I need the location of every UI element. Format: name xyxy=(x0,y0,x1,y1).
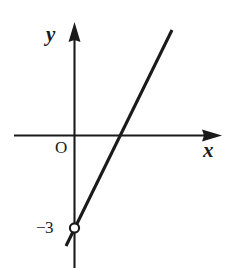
y-intercept-label: −3 xyxy=(36,219,53,236)
y-axis-label: y xyxy=(46,24,55,45)
graph-figure: y x O −3 xyxy=(0,0,234,268)
y-axis-arrowhead xyxy=(69,22,81,42)
origin-label: O xyxy=(55,139,67,156)
plotted-line xyxy=(66,30,172,246)
open-circle-marker xyxy=(70,223,79,232)
x-axis-label: x xyxy=(203,140,214,161)
